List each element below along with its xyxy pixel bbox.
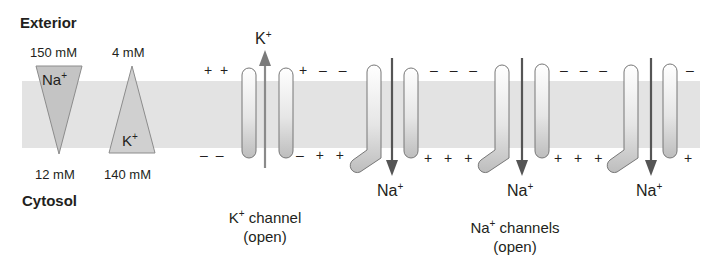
cytosol-charges-na1: + + + (424, 150, 476, 166)
na-exterior-concentration: 150 mM (30, 45, 77, 60)
exterior-charges-na1: – – – (430, 62, 481, 78)
cytosol-charges-k-right: – + + (296, 147, 348, 163)
na-cytosol-concentration: 12 mM (35, 167, 75, 182)
cytosol-charges-na3: + (684, 150, 692, 166)
exterior-charges-na3: – (686, 62, 694, 78)
na-channels-caption: Na+ channels (open) (445, 218, 585, 256)
k-cytosol-concentration: 140 mM (104, 167, 151, 182)
exterior-charges-na2: – – – (560, 62, 611, 78)
cytosol-charges-left: – – (200, 147, 225, 163)
na-ion-label-3: Na+ (636, 182, 662, 200)
na-gradient-label: Na+ (42, 71, 67, 88)
na-channel-1-right-subunit (404, 68, 418, 158)
k-channel-right-subunit (279, 68, 293, 158)
k-exterior-concentration: 4 mM (112, 45, 145, 60)
na-ion-label-1: Na+ (377, 182, 403, 200)
membrane-diagram-graphics (0, 0, 713, 268)
exterior-label: Exterior (20, 14, 77, 31)
cytosol-charges-na2: + + + (554, 150, 606, 166)
na-ion-label-2: Na+ (507, 182, 533, 200)
exterior-charges-k-right: + – – (299, 62, 351, 78)
exterior-charges-left: + + (204, 62, 230, 78)
k-ion-label: K+ (255, 30, 272, 48)
na-channel-3-right-subunit (663, 64, 677, 158)
cytosol-label: Cytosol (22, 192, 77, 209)
k-gradient-label: K+ (122, 132, 138, 149)
k-channel-left-subunit (242, 68, 256, 158)
k-channel-caption: K+ channel (open) (205, 208, 325, 246)
na-channel-2-right-subunit (535, 64, 549, 158)
